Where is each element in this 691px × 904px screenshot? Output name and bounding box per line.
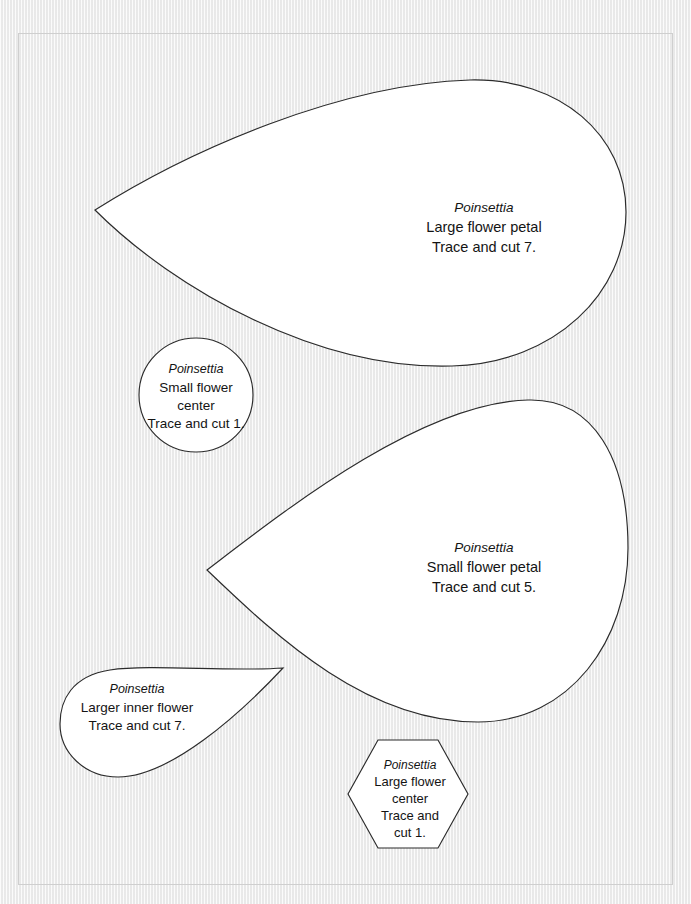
shape-large-flower-petal[interactable] xyxy=(95,80,626,366)
label-line-small-flower-center-1: Small flower xyxy=(159,380,233,395)
label-line-large-flower-center-4: cut 1. xyxy=(394,825,426,840)
label-title-large-flower-center: Poinsettia xyxy=(384,758,437,772)
label-line-large-flower-petal-2: Trace and cut 7. xyxy=(432,239,536,255)
label-line-larger-inner-flower-2: Trace and cut 7. xyxy=(88,718,185,733)
label-title-small-flower-petal: Poinsettia xyxy=(454,540,514,555)
label-line-small-flower-center-2: center xyxy=(177,398,215,413)
shape-small-flower-center[interactable] xyxy=(139,338,253,452)
label-line-larger-inner-flower-1: Larger inner flower xyxy=(81,700,194,715)
label-line-small-flower-petal-1: Small flower petal xyxy=(427,559,541,575)
label-line-large-flower-center-2: center xyxy=(392,791,429,806)
label-title-large-flower-petal: Poinsettia xyxy=(454,200,514,215)
label-line-large-flower-center-1: Large flower xyxy=(374,774,446,789)
template-canvas: Poinsettia Large flower petal Trace and … xyxy=(0,0,691,904)
label-line-small-flower-petal-2: Trace and cut 5. xyxy=(432,579,536,595)
label-title-larger-inner-flower: Poinsettia xyxy=(110,682,165,696)
label-title-small-flower-center: Poinsettia xyxy=(169,362,224,376)
label-line-large-flower-center-3: Trace and xyxy=(381,808,439,823)
template-sheet-page: Poinsettia Large flower petal Trace and … xyxy=(0,0,691,904)
label-line-large-flower-petal-1: Large flower petal xyxy=(426,219,541,235)
label-line-small-flower-center-3: Trace and cut 1. xyxy=(147,416,244,431)
